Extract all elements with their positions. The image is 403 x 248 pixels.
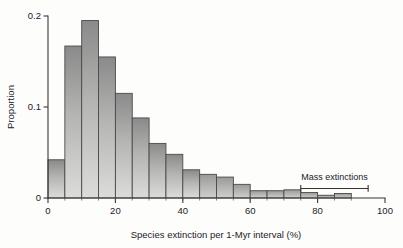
- x-axis-title: Species extinction per 1-Myr interval (%…: [131, 229, 302, 240]
- histogram-bar: [82, 21, 99, 198]
- histogram-bar: [284, 190, 301, 198]
- y-tick-label: 0: [36, 192, 41, 203]
- histogram-bar: [183, 170, 200, 198]
- x-ticks-group: 020406080100: [45, 198, 393, 216]
- y-axis-title: Proportion: [5, 85, 16, 129]
- bars-group: [48, 21, 351, 198]
- histogram-bar: [166, 154, 183, 198]
- histogram-bar: [99, 57, 116, 198]
- histogram-bar: [233, 184, 250, 198]
- x-tick-label: 100: [377, 205, 393, 216]
- histogram-bar: [149, 143, 166, 198]
- histogram-bar: [250, 191, 267, 198]
- y-tick-label: 0.1: [28, 101, 41, 112]
- histogram-bar: [65, 46, 82, 198]
- histogram-bar: [301, 193, 318, 198]
- histogram-bar: [48, 160, 65, 198]
- mass-extinctions-annotation: Mass extinctions: [301, 172, 368, 191]
- annotation-label-mass-extinctions: Mass extinctions: [301, 172, 368, 182]
- histogram-bar: [115, 93, 132, 198]
- x-tick-label: 20: [110, 205, 121, 216]
- x-tick-label: 60: [245, 205, 256, 216]
- histogram-figure: 00.10.2 020406080100 Mass extinctions Sp…: [0, 0, 403, 248]
- histogram-bar: [217, 177, 234, 198]
- histogram-bar: [132, 118, 149, 198]
- x-tick-label: 0: [45, 205, 50, 216]
- x-tick-label: 40: [178, 205, 189, 216]
- y-ticks-group: 00.10.2: [28, 10, 48, 203]
- histogram-bar: [200, 174, 217, 198]
- x-tick-label: 80: [312, 205, 323, 216]
- histogram-bar: [267, 191, 284, 198]
- y-tick-label: 0.2: [28, 10, 41, 21]
- plot-canvas: 00.10.2 020406080100 Mass extinctions Sp…: [0, 0, 403, 248]
- histogram-bar: [334, 193, 351, 198]
